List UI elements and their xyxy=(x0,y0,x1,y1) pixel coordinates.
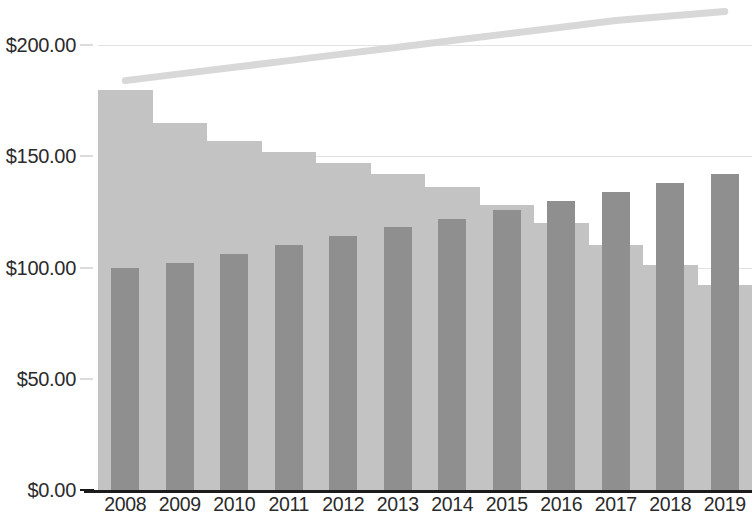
y-axis-tick-label: $0.00 xyxy=(0,480,76,500)
x-axis-tick-label: 2013 xyxy=(377,495,419,515)
bar-group[interactable] xyxy=(207,0,262,522)
bar-group[interactable] xyxy=(480,0,535,522)
bar-group[interactable] xyxy=(262,0,317,522)
bar-dark[interactable] xyxy=(329,236,357,490)
y-axis-tick-label: $50.00 xyxy=(0,369,76,389)
y-axis-tick-label: $150.00 xyxy=(0,146,76,166)
y-axis-tick-label: $100.00 xyxy=(0,258,76,278)
bar-dark[interactable] xyxy=(656,183,684,490)
bar-group[interactable] xyxy=(698,0,752,522)
bar-group[interactable] xyxy=(153,0,208,522)
x-axis-tick-label: 2017 xyxy=(595,495,637,515)
bar-dark[interactable] xyxy=(711,174,739,490)
y-axis: $0.00$50.00$100.00$150.00$200.00 xyxy=(0,0,76,522)
bar-chart: $0.00$50.00$100.00$150.00$200.00 2008200… xyxy=(0,0,752,522)
y-axis-tick-mark xyxy=(80,45,93,46)
x-axis: 2008200920102011201220132014201520162017… xyxy=(98,493,752,522)
bar-dark[interactable] xyxy=(547,201,575,490)
x-axis-tick-label: 2014 xyxy=(431,495,473,515)
bar-group[interactable] xyxy=(316,0,371,522)
bar-dark[interactable] xyxy=(220,254,248,490)
x-axis-tick-label: 2019 xyxy=(704,495,746,515)
bar-dark[interactable] xyxy=(275,245,303,490)
x-axis-tick-label: 2016 xyxy=(540,495,582,515)
plot-area xyxy=(98,0,752,522)
x-axis-tick-label: 2012 xyxy=(322,495,364,515)
y-axis-tick-mark xyxy=(80,378,93,379)
bar-group[interactable] xyxy=(371,0,426,522)
bar-dark[interactable] xyxy=(384,227,412,490)
bar-group[interactable] xyxy=(589,0,644,522)
bar-dark[interactable] xyxy=(493,210,521,490)
x-axis-tick-label: 2008 xyxy=(104,495,146,515)
bar-group[interactable] xyxy=(643,0,698,522)
x-axis-tick-label: 2015 xyxy=(486,495,528,515)
bar-dark[interactable] xyxy=(166,263,194,490)
bars-layer xyxy=(98,0,752,522)
bar-group[interactable] xyxy=(425,0,480,522)
y-axis-tick-mark xyxy=(80,156,93,157)
x-axis-tick-label: 2018 xyxy=(649,495,691,515)
x-axis-tick-label: 2010 xyxy=(213,495,255,515)
y-axis-tick-mark xyxy=(80,489,94,491)
bar-dark[interactable] xyxy=(111,268,139,491)
bar-dark[interactable] xyxy=(438,219,466,490)
y-axis-tick-label: $200.00 xyxy=(0,35,76,55)
bar-group[interactable] xyxy=(98,0,153,522)
x-axis-tick-label: 2009 xyxy=(159,495,201,515)
x-axis-tick-label: 2011 xyxy=(268,495,309,515)
bar-dark[interactable] xyxy=(602,192,630,490)
bar-group[interactable] xyxy=(534,0,589,522)
y-axis-tick-mark xyxy=(80,267,93,268)
